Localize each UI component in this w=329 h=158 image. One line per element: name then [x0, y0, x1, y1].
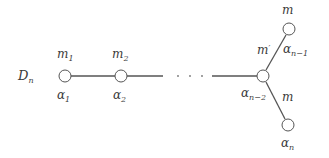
node-alpha-n-2 [257, 70, 269, 82]
ellipsis-dot [189, 75, 191, 77]
root-label-n: αn [281, 137, 294, 152]
diagram-title: Dn [18, 69, 34, 85]
mult-label-1: m1 [57, 48, 73, 63]
mult-label-2: m2 [112, 48, 128, 63]
node-alpha-n [282, 119, 294, 131]
mult-label-n: m [282, 91, 293, 103]
node-alpha-n-1 [283, 23, 295, 35]
root-label-1: α1 [57, 89, 70, 104]
root-label-n-2: αn−2 [241, 87, 266, 102]
mult-label-n-2: m′ [257, 44, 270, 56]
ellipsis-dot [201, 75, 203, 77]
root-label-n-1: αn−1 [283, 43, 308, 58]
node-alpha-1 [59, 70, 71, 82]
node-alpha-2 [115, 70, 127, 82]
mult-label-n-1: m [282, 4, 293, 16]
root-label-2: α2 [113, 89, 126, 104]
ellipsis-dot [177, 75, 179, 77]
dynkin-diagram-graph [0, 0, 329, 158]
